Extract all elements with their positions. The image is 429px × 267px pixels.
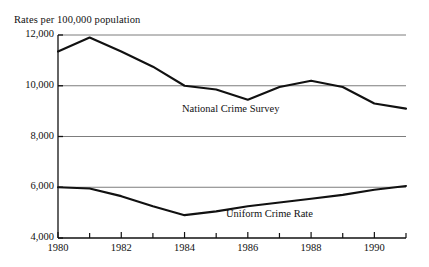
x-axis-ticks [58, 232, 406, 238]
x-tick-label: 1988 [287, 242, 335, 253]
series-line-national-crime-survey [58, 38, 406, 109]
y-tick-label: 12,000 [25, 28, 54, 39]
y-tick-label: 10,000 [25, 79, 54, 90]
x-tick-label: 1980 [34, 242, 82, 253]
x-tick-label: 1982 [97, 242, 145, 253]
series-label-uniform-crime-rate: Uniform Crime Rate [226, 208, 313, 219]
x-tick-label: 1986 [224, 242, 272, 253]
crime-rates-line-chart: Rates per 100,000 population 12,00010,00… [0, 0, 429, 267]
x-tick-label: 1990 [350, 242, 398, 253]
data-series-lines [58, 38, 406, 216]
y-axis-ticks [58, 35, 63, 238]
y-tick-label: 8,000 [30, 130, 54, 141]
plot-area [0, 0, 429, 267]
series-label-national-crime-survey: National Crime Survey [182, 103, 279, 114]
y-tick-label: 6,000 [30, 180, 54, 191]
x-tick-label: 1984 [161, 242, 209, 253]
y-tick-label: 4,000 [30, 231, 54, 242]
